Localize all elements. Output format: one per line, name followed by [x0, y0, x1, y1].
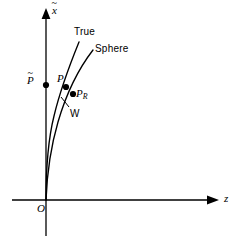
point-marker-p-tilde [43, 82, 49, 88]
tilde-accent-icon: ~ [52, 0, 57, 8]
point-label-p-r-subscript: R [83, 92, 88, 101]
point-label-p-tilde: ~P [27, 75, 34, 86]
z-axis-label: z [224, 193, 228, 204]
z-axis-arrowhead [207, 195, 219, 204]
sphere-curve [46, 50, 93, 200]
point-marker-p [63, 84, 69, 90]
diagram-canvas [0, 0, 238, 246]
point-label-p-r: PR [76, 88, 88, 101]
point-label-p-r-base: P [76, 87, 83, 99]
x-tilde-axis-arrowhead [42, 8, 51, 19]
curve-label-true: True [74, 27, 95, 37]
annotation-label-w: W [70, 109, 80, 119]
origin-label: O [37, 203, 45, 214]
trajectory-diagram: ~x z O ~P P PR W True Sphere [0, 0, 238, 246]
curve-label-sphere: Sphere [95, 44, 128, 54]
tilde-accent-icon: ~ [28, 68, 33, 78]
w-leader-line [61, 97, 69, 107]
true-curve [46, 42, 79, 200]
x-tilde-axis-label: ~x [52, 5, 57, 16]
point-label-p: P [57, 73, 64, 84]
